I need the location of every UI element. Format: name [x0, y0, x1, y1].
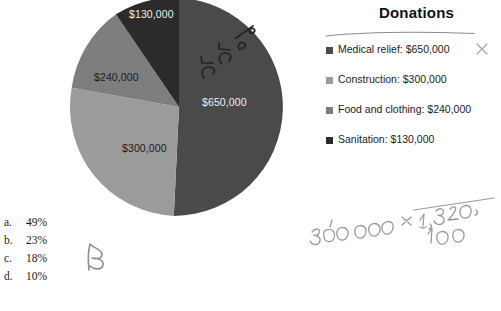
legend-item-construction: Construction: $300,000 — [326, 73, 501, 85]
legend-item-label: Medical relief: $650,000 — [338, 43, 450, 55]
chart-title: Donations — [326, 4, 501, 21]
choice-key: b. — [4, 234, 26, 246]
legend-swatch-icon — [326, 107, 333, 114]
legend-item-sanitation: Sanitation: $130,000 — [326, 133, 501, 145]
answer-choice-d[interactable]: d. 10% — [4, 270, 47, 288]
legend-item-label: Construction: $300,000 — [338, 73, 447, 85]
handwritten-x-icon — [474, 41, 490, 57]
pie-label-construction: $300,000 — [122, 142, 167, 154]
legend-items: Medical relief: $650,000 Construction: $… — [326, 43, 501, 145]
answer-choice-a[interactable]: a. 49% — [4, 216, 47, 234]
legend-item-food-and-clothing: Food and clothing: $240,000 — [326, 103, 501, 115]
pie-chart: $650,000 $300,000 $240,000 $130,000 — [70, 0, 288, 216]
choice-value: 10% — [26, 270, 47, 282]
worksheet-page: $650,000 $300,000 $240,000 $130,000 Dona… — [0, 0, 501, 311]
handwritten-selected-answer — [82, 240, 112, 274]
handwritten-underline — [324, 30, 476, 38]
choice-key: d. — [4, 270, 26, 282]
legend-panel: Donations Medical relief: $650,000 Const… — [326, 4, 501, 163]
legend-swatch-icon — [326, 137, 333, 144]
answer-choice-c[interactable]: c. 18% — [4, 252, 47, 270]
choice-value: 49% — [26, 216, 47, 228]
legend-swatch-icon — [326, 47, 333, 54]
choice-key: a. — [4, 216, 26, 228]
answer-choices: a. 49% b. 23% c. 18% d. 10% — [4, 216, 47, 288]
pie-label-sanitation: $130,000 — [129, 8, 174, 20]
pie-label-food: $240,000 — [94, 71, 139, 83]
pie-chart-svg — [70, 0, 288, 216]
choice-key: c. — [4, 252, 26, 264]
legend-item-label: Sanitation: $130,000 — [338, 133, 434, 145]
pie-label-medical: $650,000 — [202, 96, 247, 108]
legend-item-medical-relief: Medical relief: $650,000 — [326, 43, 501, 55]
answer-choice-b[interactable]: b. 23% — [4, 234, 47, 252]
handwritten-scratch-work — [306, 196, 496, 256]
choice-value: 18% — [26, 252, 47, 264]
choice-value: 23% — [26, 234, 47, 246]
legend-swatch-icon — [326, 77, 333, 84]
legend-item-label: Food and clothing: $240,000 — [338, 103, 471, 115]
